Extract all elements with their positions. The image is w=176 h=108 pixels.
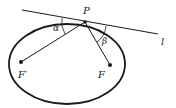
point-p (83, 20, 87, 24)
label-p: P (82, 5, 90, 16)
label-l: l (161, 36, 164, 47)
label-beta: β (101, 36, 107, 46)
label-alpha: α (53, 23, 59, 33)
angle-arc-alpha (62, 18, 65, 34)
label-focus-right: F (97, 69, 106, 80)
focus-right-dot (108, 63, 112, 67)
ellipse-diagram: P l α β F′ F (0, 0, 176, 108)
focus-left-dot (19, 60, 23, 64)
label-focus-left: F′ (17, 69, 28, 80)
ellipse (9, 24, 125, 104)
